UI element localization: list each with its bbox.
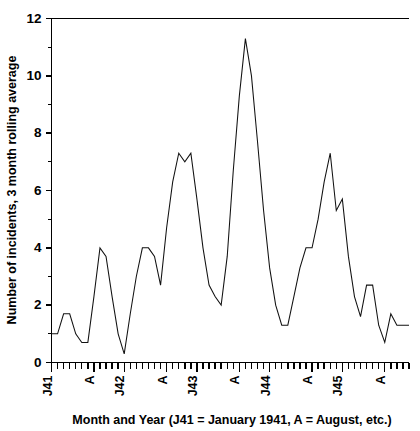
x-tick-label: J42 (113, 375, 127, 396)
data-series-group (52, 39, 410, 354)
y-axis: 024681012 (26, 11, 51, 370)
line-chart: 024681012 J41AJ42AJ43AJ44AJ45A Number of… (0, 0, 420, 431)
y-tick-label: 10 (26, 68, 41, 83)
x-tick-label: A (228, 376, 242, 385)
x-tick-label: J44 (259, 375, 273, 396)
plot-axes (52, 19, 410, 363)
y-tick-label: 12 (26, 11, 41, 26)
chart-figure: 024681012 J41AJ42AJ43AJ44AJ45A Number of… (0, 0, 420, 431)
y-tick-label: 8 (34, 125, 42, 140)
x-tick-label: A (156, 376, 170, 385)
x-tick-label: A (301, 376, 315, 385)
x-axis: J41AJ42AJ43AJ44AJ45A (41, 363, 410, 397)
x-tick-label: J43 (186, 375, 200, 396)
x-tick-label: J45 (331, 375, 345, 396)
data-series-line (52, 39, 410, 354)
y-tick-label: 0 (34, 355, 42, 370)
x-axis-title: Month and Year (J41 = January 1941, A = … (72, 413, 391, 427)
x-tick-label: J41 (41, 375, 55, 396)
x-tick-label: A (374, 376, 388, 385)
y-tick-label: 4 (34, 240, 42, 255)
y-axis-title: Number of incidents, 3 month rolling ave… (5, 56, 19, 325)
y-tick-label: 6 (34, 183, 42, 198)
y-tick-label: 2 (34, 297, 42, 312)
x-tick-label: A (83, 376, 97, 385)
